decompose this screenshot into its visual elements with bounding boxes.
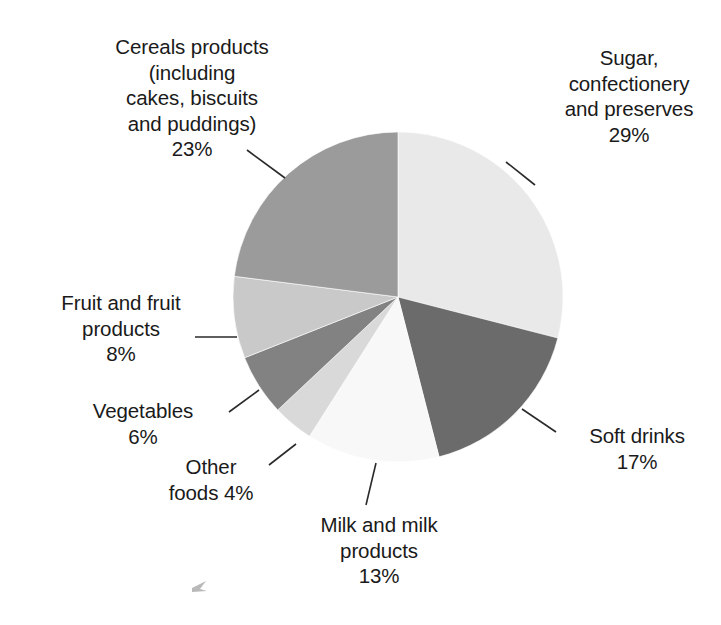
pie-slice-group bbox=[233, 132, 563, 462]
pie-label-soft-drinks: Soft drinks 17% bbox=[562, 423, 712, 474]
pie-label-vegetables: Vegetables 6% bbox=[50, 398, 236, 449]
pie-label-milk: Milk and milk products 13% bbox=[276, 512, 482, 589]
pie-label-cereals: Cereals products (including cakes, biscu… bbox=[64, 34, 320, 162]
pie-label-other-foods: Other foods 4% bbox=[146, 454, 276, 505]
pie-label-fruit: Fruit and fruit products 8% bbox=[28, 290, 214, 367]
leader-line-soft-drinks bbox=[522, 409, 556, 432]
leader-line-milk bbox=[366, 463, 376, 505]
scan-artifact-group bbox=[192, 581, 207, 592]
pie-label-sugar: Sugar, confectionery and preserves 29% bbox=[540, 45, 718, 147]
pie-chart: Cereals products (including cakes, biscu… bbox=[0, 0, 721, 625]
